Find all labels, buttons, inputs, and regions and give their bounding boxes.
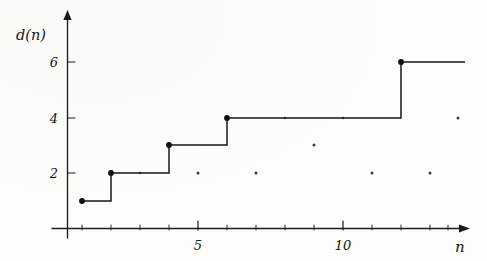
x-axis-arrow-icon — [459, 225, 470, 233]
step-path — [82, 62, 465, 201]
x-axis-title: n — [455, 238, 465, 256]
record-point-n4 — [166, 142, 172, 148]
figure-canvas: 6 4 2 d(n) 5 10 n — [0, 0, 487, 261]
scatter-point-n13 — [429, 172, 432, 175]
chart-svg: 6 4 2 d(n) 5 10 n — [0, 0, 487, 261]
scatter-point-n14 — [457, 117, 460, 120]
y-tick-label-4: 4 — [49, 111, 58, 126]
y-axis-title: d(n) — [16, 27, 46, 43]
record-point-n1 — [79, 198, 85, 204]
segment-mark-n10 — [342, 117, 345, 120]
scatter-point-n11 — [371, 172, 374, 175]
x-axis: 5 10 n — [52, 221, 470, 256]
y-axis: 6 4 2 d(n) — [16, 10, 75, 238]
record-point-n2 — [108, 170, 114, 176]
x-tick-label-5: 5 — [194, 238, 202, 253]
record-points — [79, 59, 404, 204]
scatter-points — [197, 117, 460, 175]
x-tick-label-10: 10 — [335, 238, 352, 253]
y-tick-label-2: 2 — [49, 166, 58, 181]
step-envelope-line — [82, 62, 465, 201]
record-point-n12 — [398, 59, 404, 65]
y-tick-label-6: 6 — [50, 55, 58, 70]
scatter-point-n5 — [197, 172, 200, 175]
segment-mark-n3 — [139, 172, 142, 175]
scatter-point-n7 — [255, 172, 258, 175]
scatter-point-n9 — [313, 144, 316, 147]
y-axis-arrow-icon — [63, 10, 71, 20]
segment-mark-n8 — [284, 117, 287, 120]
record-point-n6 — [224, 115, 230, 121]
